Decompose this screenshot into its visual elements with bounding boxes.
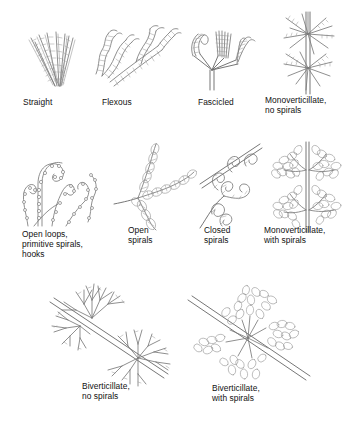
panel-label-biverticillate-no-spirals: Biverticillate, no spirals — [82, 382, 130, 402]
drawing-biverticillate-no-spirals — [46, 282, 178, 386]
panel-label-straight: Straight — [23, 98, 52, 108]
drawing-fascicled — [180, 12, 265, 92]
panel-label-fascicled: Fascicled — [198, 98, 234, 108]
drawing-open-spirals — [108, 142, 200, 230]
drawing-flexous — [88, 12, 183, 92]
drawing-straight — [14, 12, 94, 92]
panel-open-spirals: Open spirals — [108, 142, 200, 230]
panel-label-monoverticillate-with-spirals: Monoverticillate, with spirals — [264, 226, 325, 246]
panel-monoverticillate-with-spirals: Monoverticillate, with spirals — [266, 142, 354, 232]
drawing-open-loops — [8, 146, 108, 230]
panel-monoverticillate-no-spirals: Monoverticillate, no spirals — [262, 10, 352, 94]
panel-label-monoverticillate-no-spirals: Monoverticillate, no spirals — [265, 96, 326, 116]
panel-straight: Straight — [14, 12, 94, 92]
panel-fascicled: Fascicled — [180, 12, 265, 92]
panel-biverticillate-no-spirals: Biverticillate, no spirals — [46, 282, 178, 386]
drawing-biverticillate-with-spirals — [186, 286, 326, 386]
conidiophore-morphology-figure: Straight — [0, 0, 355, 436]
panel-biverticillate-with-spirals: Biverticillate, with spirals — [186, 286, 326, 386]
panel-flexous: Flexous — [88, 12, 183, 92]
drawing-monoverticillate-with-spirals — [266, 142, 354, 232]
drawing-monoverticillate-no-spirals — [262, 10, 352, 94]
panel-label-open-spirals: Open spirals — [128, 226, 153, 246]
panel-label-open-loops: Open loops, primitive spirals, hooks — [22, 230, 83, 260]
panel-open-loops: Open loops, primitive spirals, hooks — [8, 146, 108, 230]
panel-label-closed-spirals: Closed spirals — [204, 226, 230, 246]
panel-label-flexous: Flexous — [102, 98, 132, 108]
panel-label-biverticillate-with-spirals: Biverticillate, with spirals — [212, 384, 260, 404]
